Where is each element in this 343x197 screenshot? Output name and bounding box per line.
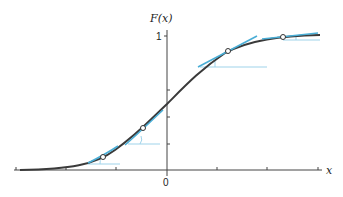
- angle-marks: [99, 36, 296, 164]
- point-marker: [141, 126, 146, 131]
- y-axis-label: F(x): [149, 12, 172, 25]
- y-tick-label-1: 1: [156, 31, 162, 42]
- cdf-curve: [20, 35, 320, 170]
- cdf-diagram: F(x) 1 0 x: [0, 0, 343, 197]
- origin-label: 0: [163, 177, 169, 188]
- point-marker: [226, 49, 231, 54]
- point-marker: [101, 155, 106, 160]
- x-axis-label: x: [326, 164, 333, 177]
- point-marker: [281, 35, 286, 40]
